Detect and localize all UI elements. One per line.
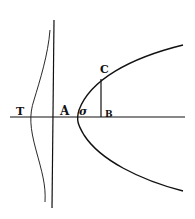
vertical-line	[52, 20, 54, 208]
parabola-diagram: T A σ B C	[0, 0, 195, 219]
parabola	[78, 45, 183, 191]
label-A: A	[59, 104, 70, 118]
label-T: T	[16, 105, 25, 118]
wavy-curve	[31, 30, 50, 202]
label-sigma: σ	[79, 105, 88, 118]
label-C: C	[100, 63, 109, 76]
label-B: B	[105, 109, 113, 119]
